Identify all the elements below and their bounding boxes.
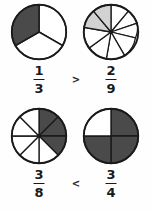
fraction-label-three-fourths: 3 4 <box>106 168 117 199</box>
fraction-model-two-ninths: 2 9 <box>75 0 147 105</box>
fraction-denominator: 8 <box>34 185 45 199</box>
pie-chart-one-third <box>10 3 68 61</box>
fraction-label-two-ninths: 2 9 <box>106 64 117 95</box>
fraction-bar <box>34 79 45 80</box>
fraction-denominator: 4 <box>106 185 117 199</box>
fraction-denominator: 9 <box>106 81 117 95</box>
fraction-denominator: 3 <box>34 81 45 95</box>
fraction-numerator: 3 <box>34 168 45 182</box>
fraction-label-one-third: 1 3 <box>34 64 45 95</box>
pie-center-dot <box>37 134 40 137</box>
fraction-model-one-third: 1 3 <box>3 0 75 105</box>
pie-chart-two-ninths <box>82 3 140 61</box>
fraction-model-three-fourths: 3 4 <box>75 104 147 209</box>
fraction-numerator: 1 <box>34 64 45 78</box>
comparison-row-bottom: 3 8 < 3 4 <box>0 104 151 209</box>
fraction-bar <box>106 79 117 80</box>
fraction-model-three-eighths: 3 8 <box>3 104 75 209</box>
pie-center-dot <box>109 30 112 33</box>
fraction-comparison-figure: 1 3 > <box>0 0 151 211</box>
fraction-numerator: 3 <box>106 168 117 182</box>
fraction-numerator: 2 <box>106 64 117 78</box>
pie-two-ninths-svg <box>82 3 140 61</box>
pie-chart-three-eighths <box>10 107 68 165</box>
comparison-row-top: 1 3 > <box>0 0 151 105</box>
fraction-bar <box>106 183 117 184</box>
pie-three-eighths-svg <box>10 107 68 165</box>
fraction-label-three-eighths: 3 8 <box>34 168 45 199</box>
pie-three-fourths-svg <box>82 107 140 165</box>
pie-chart-three-fourths <box>82 107 140 165</box>
fraction-bar <box>34 183 45 184</box>
pie-one-third-svg <box>10 3 68 61</box>
